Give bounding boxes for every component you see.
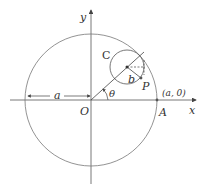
theta-arc [103, 89, 108, 100]
small-circle-label: C [102, 49, 110, 62]
point-a [156, 99, 159, 102]
point-a-coords-label: (a, 0) [162, 88, 186, 98]
point-a-label: A [158, 106, 167, 119]
small-circle-center [126, 66, 129, 69]
center-line [91, 52, 144, 100]
point-p [140, 77, 143, 80]
theta-label: θ [109, 88, 115, 99]
radius-a-label: a [54, 89, 61, 102]
diagram-canvas: y x O A (a, 0) C P a b θ [0, 0, 206, 187]
origin-label: O [80, 105, 89, 118]
x-axis-label: x [189, 104, 196, 117]
point-p-label: P [141, 80, 150, 93]
radius-b-label: b [128, 73, 135, 86]
y-axis-label: y [79, 11, 87, 24]
